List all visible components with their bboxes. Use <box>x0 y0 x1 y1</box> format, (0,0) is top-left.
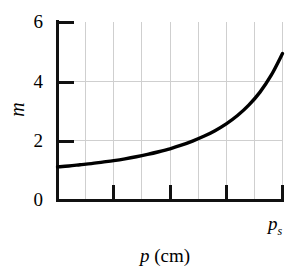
gridline-vertical <box>113 22 114 200</box>
y-tick-label-0: 0 <box>17 190 43 209</box>
gridline-vertical <box>254 22 255 200</box>
y-tick-label-2: 2 <box>17 131 43 150</box>
x-axis-title: p (cm) <box>105 245 225 267</box>
chart-figure: 6 4 2 0 m p (cm) ps <box>0 0 307 280</box>
x-tick-4 <box>281 185 284 200</box>
gridline-vertical <box>282 22 283 200</box>
gridline-vertical <box>198 22 199 200</box>
x-tick-3 <box>225 185 228 200</box>
x-axis-end-subscript: s <box>278 224 283 238</box>
x-axis-end-label: ps <box>268 213 282 239</box>
gridline-vertical <box>141 22 142 200</box>
gridline-horizontal <box>57 81 283 82</box>
gridline-vertical <box>226 22 227 200</box>
y-axis-line <box>56 20 59 202</box>
x-axis-title-symbol: p <box>140 245 150 266</box>
y-tick-6 <box>57 21 74 24</box>
gridline-vertical <box>85 22 86 200</box>
y-tick-4 <box>57 81 74 84</box>
x-tick-2 <box>169 185 172 200</box>
y-tick-2 <box>57 140 74 143</box>
gridline-vertical <box>170 22 171 200</box>
gridline-horizontal <box>57 140 283 141</box>
y-axis-title: m <box>6 90 29 130</box>
y-tick-label-6: 6 <box>17 12 43 31</box>
x-tick-1 <box>112 185 115 200</box>
x-axis-end-symbol: p <box>268 213 278 234</box>
y-tick-label-4: 4 <box>17 72 43 91</box>
x-axis-title-units: (cm) <box>154 245 190 266</box>
